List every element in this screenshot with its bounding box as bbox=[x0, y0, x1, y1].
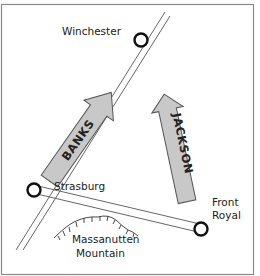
strasburg-label: Strasburg bbox=[54, 180, 105, 192]
massanutten-label-line2: Mountain bbox=[76, 247, 125, 259]
front-royal-marker bbox=[195, 223, 208, 236]
winchester-label: Winchester bbox=[62, 25, 122, 37]
strasburg-marker bbox=[28, 184, 41, 197]
map-panel: BANKS JACKSON Winchester Strasburg Front… bbox=[0, 0, 260, 276]
winchester-marker bbox=[135, 34, 148, 47]
map-canvas: BANKS JACKSON Winchester Strasburg Front… bbox=[0, 0, 260, 276]
front-royal-label-line2: Royal bbox=[212, 209, 241, 221]
jackson-army-arrow: JACKSON bbox=[149, 91, 203, 205]
massanutten-label-line1: Massanutten bbox=[72, 233, 140, 245]
front-royal-label-line1: Front bbox=[212, 196, 239, 208]
banks-army-arrow: BANKS bbox=[35, 82, 126, 191]
